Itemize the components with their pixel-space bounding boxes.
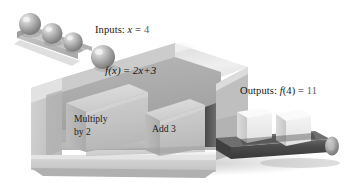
formula-expression: 2x+3 <box>133 64 157 76</box>
input-sphere-3 <box>63 32 83 52</box>
block-add-line1: Add 3 <box>152 123 176 136</box>
inputs-label: Inputs: x = 4 <box>95 24 149 35</box>
formula-argument: (x) <box>108 64 121 76</box>
formula-label: f(x) = 2x+3 <box>105 64 156 76</box>
outputs-value: 11 <box>307 85 317 96</box>
outputs-label: Outputs: f(4) = 11 <box>240 85 317 96</box>
block-multiply-line1: Multiply <box>74 113 108 126</box>
block-multiply-label: Multiply by 2 <box>74 113 108 138</box>
input-sphere-2 <box>42 23 63 44</box>
block-multiply-line2: by 2 <box>74 126 108 139</box>
function-machine-illustration: Inputs: x = 4 f(x) = 2x+3 Outputs: f(4) … <box>0 0 345 183</box>
output-cubes <box>237 108 316 146</box>
inputs-equals: = <box>135 24 141 35</box>
outputs-prefix: Outputs: <box>240 85 277 96</box>
input-sphere-1 <box>19 13 41 35</box>
outputs-equals: = <box>298 85 304 96</box>
formula-equals: = <box>124 64 130 76</box>
inputs-value: 4 <box>144 24 149 35</box>
inputs-prefix: Inputs: <box>95 24 125 35</box>
block-add-label: Add 3 <box>152 123 176 136</box>
inputs-variable: x <box>128 24 133 35</box>
cube-2-front <box>286 116 311 146</box>
outputs-argument: (4) <box>283 85 296 96</box>
